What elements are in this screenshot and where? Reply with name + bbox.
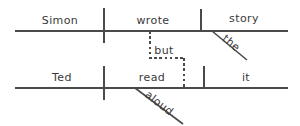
word-article-the: the bbox=[220, 32, 243, 54]
sentence-diagram-canvas: Simon wrote story the but Ted read it al… bbox=[0, 0, 300, 126]
word-object-story: story bbox=[229, 12, 259, 25]
clause-bottom: Ted read it aloud bbox=[15, 66, 288, 124]
word-verb-read: read bbox=[139, 71, 165, 84]
word-subject-ted: Ted bbox=[51, 71, 72, 84]
word-verb-wrote: wrote bbox=[136, 14, 169, 27]
word-subject-simon: Simon bbox=[42, 14, 78, 27]
word-object-it: it bbox=[242, 71, 250, 84]
word-adverb-aloud: aloud bbox=[142, 88, 176, 118]
clause-top: Simon wrote story the bbox=[15, 8, 288, 60]
sentence-diagram-svg: Simon wrote story the but Ted read it al… bbox=[0, 0, 300, 126]
word-conjunction-but: but bbox=[154, 44, 174, 57]
